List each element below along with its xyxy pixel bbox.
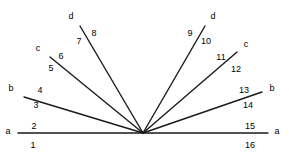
ray-diagram-canvas — [0, 0, 289, 155]
ray-lines-group — [18, 26, 268, 133]
geometry-figure: a21b43c65d78d910c1112b1314a1516 — [0, 0, 289, 155]
ray-c-left — [50, 57, 143, 133]
ray-c-right — [143, 52, 237, 133]
ray-b-right — [143, 92, 262, 133]
ray-d-right — [143, 26, 205, 133]
